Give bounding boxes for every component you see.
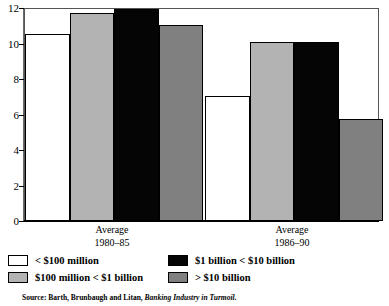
legend-swatch-icon <box>168 255 188 266</box>
bar-g0-s3 <box>159 25 204 221</box>
y-axis-tick-label-0: 0 <box>1 216 19 227</box>
source-prefix: Source: Barth, Brunbaugh and Litan, <box>22 293 145 302</box>
y-axis-tick-label-2: 2 <box>1 180 19 191</box>
y-axis-tick-12 <box>19 8 24 9</box>
y-axis-tick-label-6: 6 <box>1 109 19 120</box>
x-group-label-1: Average 1986–90 <box>232 224 352 249</box>
legend-label: < $100 million <box>35 255 99 266</box>
legend-swatch-icon <box>8 272 28 283</box>
x-group-label-0: Average 1980–85 <box>52 224 172 249</box>
chart-figure: 024681012 Average 1980–85 Average 1986–9… <box>0 0 389 306</box>
source-suffix: . <box>235 293 237 302</box>
y-axis-tick-10 <box>19 44 24 45</box>
legend-label: $100 million < $1 billion <box>35 272 143 283</box>
legend-row-0: < $100 million$1 billion < $10 billion <box>8 255 382 266</box>
legend-swatch-icon <box>168 272 188 283</box>
y-axis-tick-2 <box>19 186 24 187</box>
bar-g1-s3 <box>339 119 384 221</box>
legend-swatch-icon <box>8 255 28 266</box>
legend-item-1-1[interactable]: > $10 billion <box>168 272 368 283</box>
source-note: Source: Barth, Brunbaugh and Litan, Bank… <box>22 293 236 302</box>
legend-row-1: $100 million < $1 billion> $10 billion <box>8 272 382 283</box>
bar-g1-s1 <box>250 42 295 221</box>
y-axis-tick-0 <box>19 221 24 222</box>
bar-g1-s2 <box>294 42 339 221</box>
y-axis-tick-label-10: 10 <box>1 38 19 49</box>
bar-g0-s2 <box>114 9 159 221</box>
y-axis-tick-6 <box>19 115 24 116</box>
bar-g0-s0 <box>25 34 70 221</box>
bars-container <box>25 9 378 221</box>
bar-g0-s1 <box>70 13 115 221</box>
y-axis-tick-label-12: 12 <box>1 3 19 14</box>
legend-label: $1 billion < $10 billion <box>195 255 295 266</box>
legend-item-0-0[interactable]: < $100 million <box>8 255 168 266</box>
bar-g1-s0 <box>205 96 250 221</box>
source-title: Banking Industry in Turmoil <box>145 293 235 302</box>
y-axis-tick-8 <box>19 79 24 80</box>
x-group-label-0-line1: Average <box>52 224 172 237</box>
x-group-label-1-line1: Average <box>232 224 352 237</box>
legend-item-1-0[interactable]: $100 million < $1 billion <box>8 272 168 283</box>
x-group-label-0-line2: 1980–85 <box>52 237 172 250</box>
legend-item-0-1[interactable]: $1 billion < $10 billion <box>168 255 368 266</box>
legend-label: > $10 billion <box>195 272 251 283</box>
y-axis-tick-4 <box>19 150 24 151</box>
y-axis-tick-label-8: 8 <box>1 74 19 85</box>
y-axis-tick-label-4: 4 <box>1 145 19 156</box>
x-group-label-1-line2: 1986–90 <box>232 237 352 250</box>
chart-legend: < $100 million$1 billion < $10 billion$1… <box>8 255 382 289</box>
